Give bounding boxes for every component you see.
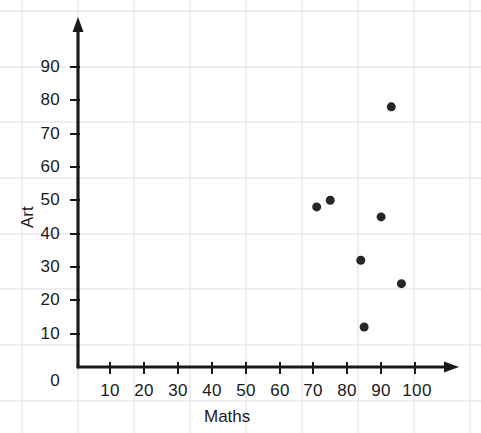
y-axis-line: [73, 17, 84, 367]
y-tick-label-30: 30: [34, 257, 60, 277]
x-tick-label-20: 20: [134, 381, 154, 401]
y-tick-label-0: 0: [34, 371, 60, 391]
x-tick-label-70: 70: [303, 381, 323, 401]
y-tick-label-10: 10: [34, 324, 60, 344]
x-tick-label-40: 40: [202, 381, 222, 401]
x-tick-label-30: 30: [168, 381, 188, 401]
data-point: [397, 279, 406, 288]
data-point-series: [312, 102, 406, 331]
y-tick-label-20: 20: [34, 290, 60, 310]
data-point: [356, 256, 365, 265]
x-tick-label-10: 10: [100, 381, 120, 401]
x-axis-title: Maths: [204, 407, 250, 427]
x-tick-label-50: 50: [236, 381, 256, 401]
y-tick-label-60: 60: [34, 157, 60, 177]
y-tick-label-90: 90: [34, 57, 60, 77]
data-point: [377, 212, 386, 221]
y-tick-label-70: 70: [34, 124, 60, 144]
x-tick-label-100: 100: [402, 381, 431, 401]
x-tick-label-90: 90: [371, 381, 391, 401]
x-tick-label-60: 60: [270, 381, 290, 401]
scatter-plot-figure: 90 80 70 60 50 40 30 20 10 0 10 20 30 40…: [0, 0, 481, 433]
y-axis-title: Art: [18, 206, 38, 228]
x-axis-line: [78, 362, 459, 373]
plot-canvas: [0, 0, 481, 433]
data-point: [312, 202, 321, 211]
data-point: [360, 322, 369, 331]
data-point: [387, 102, 396, 111]
y-tick-label-80: 80: [34, 90, 60, 110]
x-tick-label-80: 80: [337, 381, 357, 401]
data-point: [326, 196, 335, 205]
